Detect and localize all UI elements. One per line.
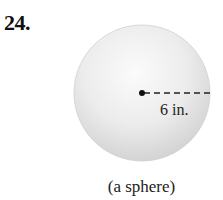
center-point [139, 90, 145, 96]
figure-caption: (a sphere) [0, 177, 223, 197]
sphere-figure: 6 in. [0, 0, 223, 200]
radius-label: 6 in. [160, 101, 188, 118]
